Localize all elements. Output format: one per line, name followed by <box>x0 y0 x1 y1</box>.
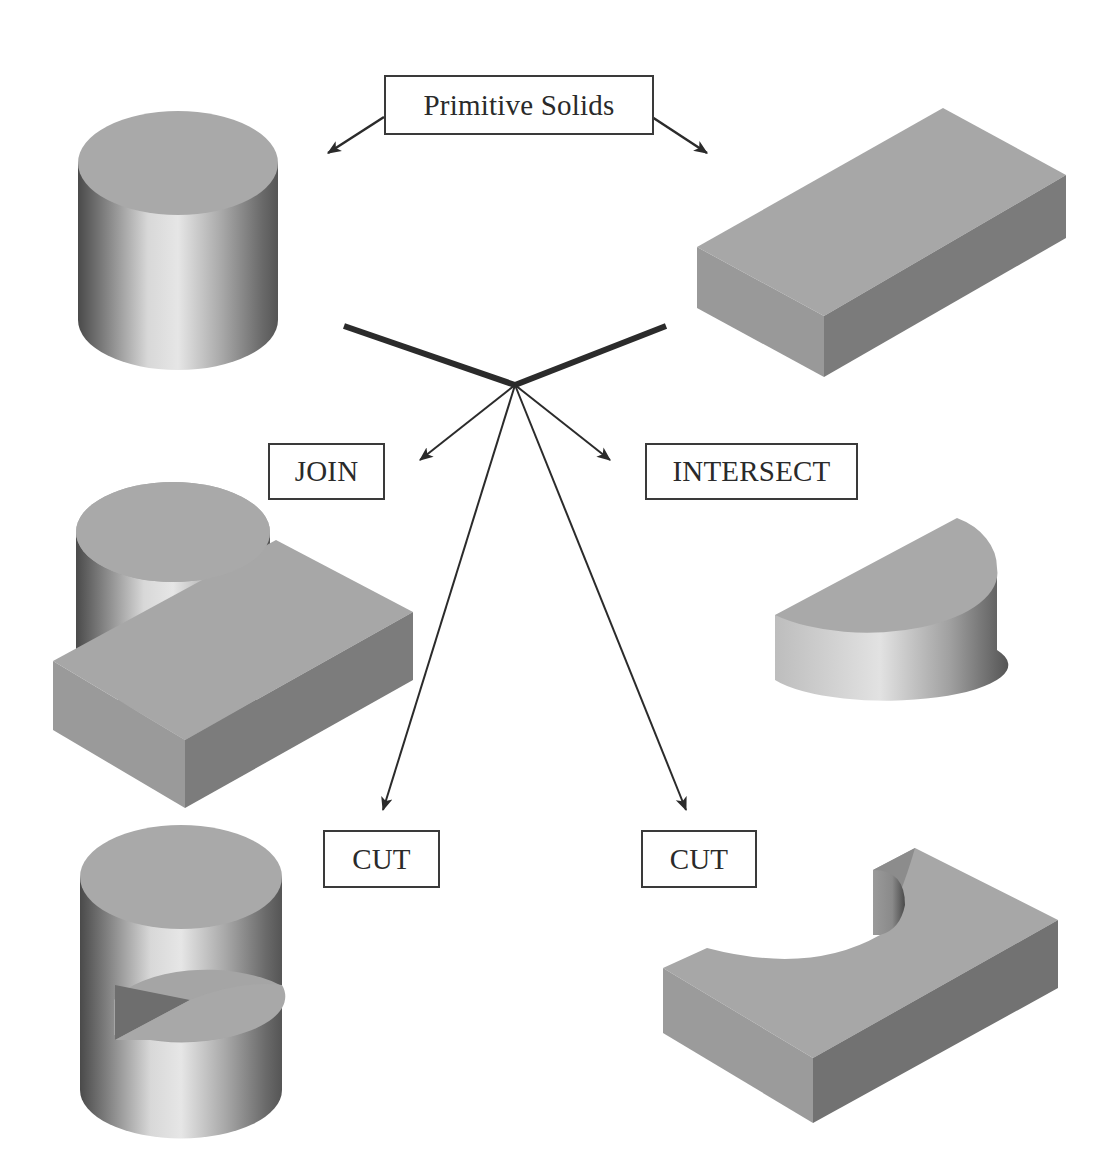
cut-right-text: CUT <box>670 843 729 876</box>
join-label: JOIN <box>268 443 385 500</box>
cut-left-label: CUT <box>323 830 440 888</box>
cut-cylinder-result-solid <box>80 825 285 1138</box>
cut-right-label: CUT <box>641 830 757 888</box>
cylinder-to-junction-line <box>344 326 515 385</box>
arrow-to-cylinder <box>328 117 384 153</box>
join-text: JOIN <box>295 455 359 488</box>
block-to-junction-line <box>515 326 666 385</box>
join-result-solid <box>53 482 413 808</box>
cylinder-primitive <box>78 111 278 370</box>
primitive-solids-text: Primitive Solids <box>424 89 615 122</box>
intersect-text: INTERSECT <box>672 455 830 488</box>
block-primitive <box>697 108 1066 377</box>
arrow-to-block <box>652 117 707 153</box>
cut-block-result-solid <box>663 848 1058 1123</box>
intersect-label: INTERSECT <box>645 443 858 500</box>
boolean-operations-diagram <box>0 0 1119 1172</box>
intersect-result-solid <box>775 518 1008 701</box>
arrow-to-join <box>420 385 515 460</box>
primitive-solids-label: Primitive Solids <box>384 75 654 135</box>
arrow-to-cut-left <box>383 385 515 810</box>
cut-left-text: CUT <box>352 843 411 876</box>
